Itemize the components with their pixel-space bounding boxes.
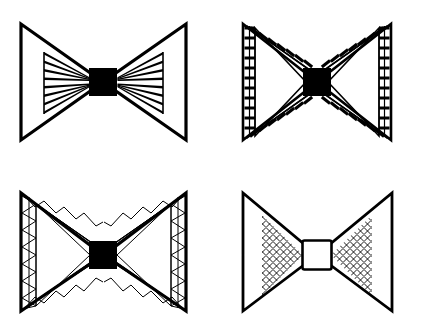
bowtie-figure-grid <box>0 0 428 320</box>
figure-panel <box>0 0 428 320</box>
figure-d-hub-square <box>303 241 332 270</box>
figure-b-hub-square <box>304 69 331 96</box>
figure-a-hub-square <box>90 69 117 96</box>
figure-c-hub-square <box>90 242 117 269</box>
